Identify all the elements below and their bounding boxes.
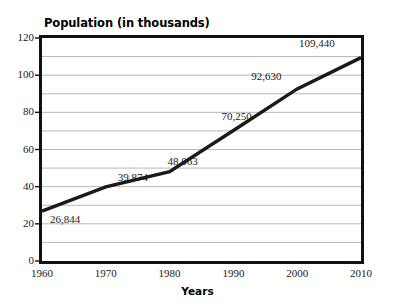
y-tick-label: 40 [4,180,34,192]
data-point-label: 92,630 [251,70,281,82]
x-tick-label: 1960 [16,267,68,279]
data-point-label: 70,250 [221,110,251,122]
x-tick-label: 2010 [335,267,387,279]
plot-area [0,0,395,307]
x-tick-label: 1980 [144,267,196,279]
y-tick-label: 120 [4,31,34,43]
y-tick-label: 0 [4,254,34,266]
y-tick-label: 60 [4,143,34,155]
y-tick-label: 100 [4,68,34,80]
population-line-chart: Population (in thousands) 02040608010012… [0,0,395,307]
x-tick-label: 1990 [207,267,259,279]
data-point-label: 109,440 [299,37,335,49]
population-data-line [42,58,361,211]
y-tick-label: 20 [4,217,34,229]
x-tick-label: 2000 [271,267,323,279]
data-point-label: 26,844 [50,213,80,225]
y-tick-label: 80 [4,105,34,117]
x-tick-label: 1970 [80,267,132,279]
x-axis-title: Years [0,285,395,297]
data-point-label: 39,874 [118,171,148,183]
data-point-label: 48,063 [168,155,198,167]
